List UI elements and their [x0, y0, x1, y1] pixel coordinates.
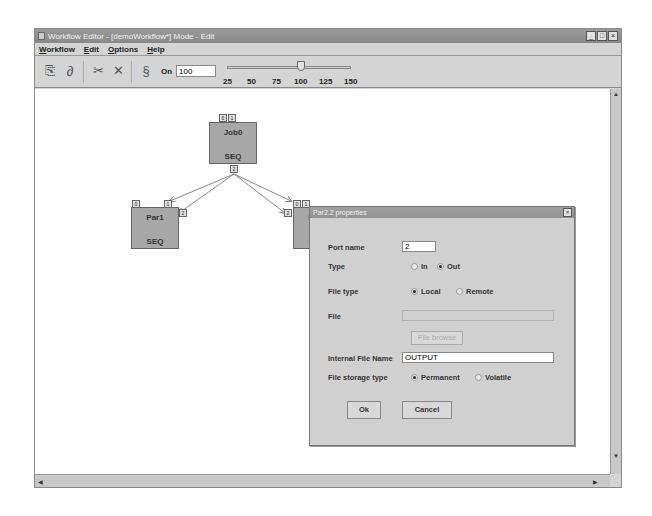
scroll-up-icon[interactable]: ▲ — [613, 91, 619, 97]
file-browse-button[interactable]: File browse — [411, 331, 463, 345]
toolbar-separator — [83, 61, 84, 83]
par1-port-2[interactable]: 2 — [179, 209, 187, 217]
menu-edit[interactable]: Edit — [84, 45, 99, 54]
radio-circle — [411, 374, 418, 381]
slider-tick: 75 — [272, 77, 281, 86]
port-properties-dialog: Par2.2 properties × Port name Type In Ou… — [309, 206, 575, 446]
vertical-scrollbar[interactable]: ▲ ▼ — [610, 89, 621, 475]
menu-help[interactable]: Help — [147, 45, 164, 54]
toolbar: ⎘ ∂ ✂ ✕ § On 25 50 75 100 125 150 — [35, 56, 621, 88]
port-name-input[interactable] — [402, 241, 436, 252]
minimize-button[interactable]: _ — [586, 31, 596, 41]
scroll-corner — [610, 474, 621, 487]
slider-tick: 125 — [319, 77, 332, 86]
node-name: Par1 — [132, 213, 178, 222]
menu-bar: Workflow Edit Options Help — [35, 43, 621, 56]
slider-tick: 50 — [247, 77, 256, 86]
par2-port-2[interactable]: 2 — [284, 209, 292, 217]
link-icon[interactable]: ∂ — [63, 64, 77, 78]
menu-options[interactable]: Options — [108, 45, 138, 54]
radio-circle — [456, 288, 463, 295]
type-label: Type — [328, 262, 345, 271]
zoom-slider-thumb[interactable] — [297, 61, 305, 71]
title-bar[interactable]: Workflow Editor - [demoWorkflow*] Mode -… — [35, 29, 621, 43]
cut-icon[interactable]: ✂ — [91, 64, 105, 78]
node-par1[interactable]: Par1 SEQ — [131, 207, 179, 249]
slider-tick: 150 — [344, 77, 357, 86]
node-type: SEQ — [132, 237, 178, 246]
radio-circle — [437, 263, 444, 270]
internal-file-name-label: Internal File Name — [328, 354, 393, 363]
zoom-input[interactable] — [176, 65, 216, 77]
horizontal-scrollbar[interactable]: ◀ ▶ — [35, 474, 612, 487]
storage-permanent-radio[interactable]: Permanent — [411, 373, 460, 382]
node-job0[interactable]: Job0 SEQ — [209, 122, 257, 164]
zoom-label: On — [161, 67, 172, 76]
radio-circle — [475, 374, 482, 381]
scroll-right-icon[interactable]: ▶ — [593, 478, 598, 485]
node-type: SEQ — [210, 152, 256, 161]
scroll-left-icon[interactable]: ◀ — [38, 478, 43, 485]
port-name-label: Port name — [328, 243, 365, 252]
dialog-title-bar[interactable]: Par2.2 properties × — [310, 207, 574, 218]
scroll-down-icon[interactable]: ▼ — [613, 453, 619, 459]
job0-in-port-0[interactable]: 0 — [219, 114, 227, 122]
dialog-title: Par2.2 properties — [313, 209, 367, 216]
window-controls: _ □ × — [586, 31, 618, 41]
ok-button[interactable]: Ok — [347, 401, 381, 419]
file-type-local-radio[interactable]: Local — [411, 287, 441, 296]
type-out-radio[interactable]: Out — [437, 262, 460, 271]
zoom-slider[interactable] — [227, 66, 351, 69]
delete-icon[interactable]: ✕ — [111, 64, 125, 78]
file-input[interactable] — [402, 310, 554, 321]
job0-out-port-2[interactable]: 2 — [230, 165, 238, 173]
close-button[interactable]: × — [608, 31, 618, 41]
window-title: Workflow Editor - [demoWorkflow*] Mode -… — [48, 32, 586, 41]
storage-volatile-radio[interactable]: Volatile — [475, 373, 511, 382]
file-type-remote-radio[interactable]: Remote — [456, 287, 494, 296]
slider-tick: 100 — [294, 77, 307, 86]
radio-circle — [411, 288, 418, 295]
radio-circle — [411, 263, 418, 270]
file-type-label: File type — [328, 287, 358, 296]
storage-type-label: File storage type — [328, 373, 388, 382]
type-in-radio[interactable]: In — [411, 262, 428, 271]
app-icon — [38, 32, 45, 40]
job0-in-port-1[interactable]: 1 — [228, 114, 236, 122]
open-icon[interactable]: ⎘ — [43, 64, 57, 78]
menu-workflow[interactable]: Workflow — [39, 45, 75, 54]
maximize-button[interactable]: □ — [597, 31, 607, 41]
node-name: Job0 — [210, 128, 256, 137]
toolbar-separator — [131, 61, 132, 83]
zoom-icon[interactable]: § — [139, 64, 153, 78]
slider-tick: 25 — [223, 77, 232, 86]
dialog-close-button[interactable]: × — [563, 208, 572, 217]
internal-file-name-input[interactable] — [402, 352, 554, 363]
file-label: File — [328, 312, 341, 321]
cancel-button[interactable]: Cancel — [402, 401, 452, 419]
